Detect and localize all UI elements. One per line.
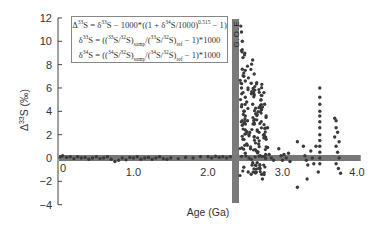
data-point [336,151,339,154]
data-point [334,162,337,165]
data-point [244,96,247,99]
data-point [91,156,94,159]
data-point [250,164,253,167]
data-point [243,110,246,113]
data-point [318,110,321,113]
x-tick-label: 4.0 [349,166,364,178]
x-axis-label: Age (Ga) [187,206,230,218]
data-point [253,163,256,166]
data-point [218,156,221,159]
data-point [260,108,263,111]
data-point [246,107,249,110]
y-tick-label: 6 [46,82,52,94]
data-point [263,165,266,168]
data-point [254,171,257,174]
data-point [264,130,267,133]
data-point [191,156,194,159]
data-point [334,119,337,122]
data-point [244,103,247,106]
data-point [251,103,254,106]
data-point [250,82,253,85]
data-point [317,170,320,173]
y-tick-label: 12 [40,12,52,24]
data-point [255,114,258,117]
data-point [305,177,308,180]
data-point [306,163,309,166]
data-point [260,120,263,123]
data-point [318,114,321,117]
data-point [154,156,157,159]
data-point [318,162,321,165]
data-point [184,156,187,159]
data-point [239,79,242,82]
data-point [277,147,280,150]
x-tick-label: 0 [60,162,66,174]
data-point [257,167,260,170]
data-point [242,166,245,169]
data-point [318,86,321,89]
data-point [241,68,244,71]
data-point [264,157,267,160]
formula-cap-delta33: Δ33S = δ33S − 1000*((1 + δ34S/1000)0.515… [72,18,227,33]
data-point [254,155,257,158]
data-point [240,86,243,89]
data-point [336,131,339,134]
data-point [296,140,299,143]
y-tick-label: 4 [46,105,52,117]
data-point [240,92,243,95]
data-point [244,79,247,82]
data-point [80,156,83,159]
data-point [264,148,267,151]
data-point [248,131,251,134]
data-point [210,156,213,159]
data-point [95,155,98,158]
data-point [243,117,246,120]
data-point [260,112,263,115]
data-point [253,85,256,88]
data-point [339,172,342,175]
y-tick-label: −4 [39,199,52,211]
data-point [318,133,321,136]
data-point [265,145,268,148]
data-point [279,154,282,157]
data-point [262,133,265,136]
data-point [243,53,246,56]
data-point [246,144,249,147]
data-point [165,158,168,161]
data-point [169,156,172,159]
data-point [260,103,263,106]
data-point [309,149,312,152]
data-point [260,83,263,86]
data-point [239,98,242,101]
data-point [334,145,337,148]
data-point [251,122,254,125]
formula-delta34: δ34S = ((34S/32S)samp/(34S/32S)ref − 1)*… [72,48,227,63]
data-point [251,116,254,119]
data-point [258,139,261,142]
data-point [72,157,75,160]
data-point [311,156,314,159]
data-point [337,167,340,170]
data-point [318,96,321,99]
data-point [87,158,90,161]
data-point [102,156,105,159]
y-axis: 121086420−2−4 [39,12,62,211]
data-point [241,74,244,77]
data-point [258,163,261,166]
data-point [76,155,79,158]
data-point [303,154,306,157]
data-point [262,123,265,126]
data-point [69,155,72,158]
data-point [221,155,224,158]
data-point [305,159,308,162]
data-point [259,170,262,173]
data-point [318,103,321,106]
data-point [252,148,255,151]
data-point [285,156,288,159]
data-point [199,155,202,158]
data-point [246,65,249,68]
data-point [318,151,321,154]
y-tick-label: 0 [46,152,52,164]
data-point [281,159,284,162]
data-point [206,155,209,158]
